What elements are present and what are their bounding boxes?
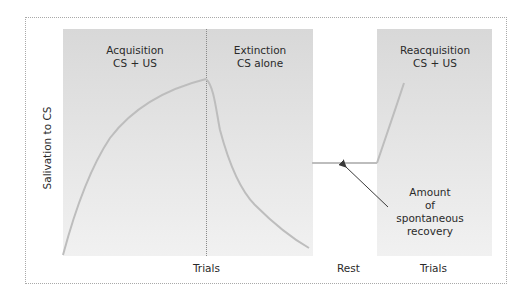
reacquisition-curve <box>377 83 404 163</box>
extinction-curve <box>206 79 309 248</box>
y-axis-label: Salivation to CS <box>41 107 53 190</box>
x-label-rest: Rest <box>337 262 360 274</box>
x-label-trials-1: Trials <box>193 262 220 274</box>
x-label-trials-2: Trials <box>420 262 447 274</box>
spontaneous-recovery-annotation: Amount of spontaneous recovery <box>380 186 480 238</box>
annotation-line-4: recovery <box>380 225 480 238</box>
annotation-line-1: Amount <box>380 186 480 199</box>
curves <box>0 0 526 299</box>
annotation-line-2: of <box>380 199 480 212</box>
annotation-line-3: spontaneous <box>380 212 480 225</box>
acquisition-curve <box>63 79 206 255</box>
